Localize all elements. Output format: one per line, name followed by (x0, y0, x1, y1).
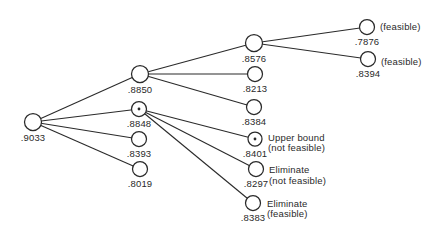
node-7876 (360, 20, 375, 35)
node-8850-value-label: .8850 (128, 84, 153, 95)
node-8383 (246, 196, 261, 211)
node-8393 (132, 132, 147, 147)
node-8383-value-label: .8383 (241, 212, 266, 223)
node-8213-value-label: .8213 (243, 83, 268, 94)
edge-9033-8850 (33, 74, 140, 122)
node-8297 (249, 162, 264, 177)
node-7876-annotation-line-0: (feasible) (380, 22, 421, 33)
edge-8576-8394 (254, 43, 368, 59)
edge-9033-8019 (33, 122, 140, 169)
node-8394-annotation-line-0: (feasible) (381, 57, 422, 68)
node-8394-annotation: (feasible) (381, 57, 422, 68)
node-8850 (132, 66, 149, 83)
node-8384-value-label: .8384 (242, 116, 267, 127)
node-8394-value-label: .8394 (356, 68, 381, 79)
edge-9033-8848 (33, 109, 139, 122)
node-8848-center-dot-icon (138, 108, 141, 111)
node-9033-value-label: .9033 (21, 132, 46, 143)
edge-8576-7876 (254, 27, 367, 43)
node-8019-value-label: .8019 (128, 178, 153, 189)
edge-8848-8383 (139, 109, 253, 203)
node-8401-annotation: Upper bound(not feasible) (268, 133, 325, 154)
node-8383-annotation: Eliminate(feasible) (267, 199, 308, 220)
node-8297-value-label: .8297 (244, 178, 269, 189)
node-8576 (246, 35, 263, 52)
edge-8848-8297 (139, 109, 256, 169)
node-8401-value-label: .8401 (243, 148, 268, 159)
node-8213 (248, 67, 263, 82)
node-8384 (247, 100, 262, 115)
node-8019 (133, 162, 148, 177)
node-8297-annotation-line-0: Eliminate (269, 165, 326, 176)
node-8297-annotation: Eliminate(not feasible) (269, 165, 326, 186)
node-8383-annotation-line-1: (feasible) (267, 209, 308, 220)
node-8401-center-dot-icon (254, 138, 257, 141)
edge-9033-8393 (33, 122, 139, 139)
node-9033 (25, 114, 42, 131)
node-8401-annotation-line-1: (not feasible) (268, 143, 325, 154)
node-7876-annotation: (feasible) (380, 22, 421, 33)
node-8393-value-label: .8393 (127, 148, 152, 159)
node-7876-value-label: .7876 (355, 36, 380, 47)
node-8848-value-label: .8848 (127, 118, 152, 129)
branch-and-bound-tree-figure: .9033.8850.8848.8393.8019.8576.8213.8384… (0, 0, 434, 237)
node-8297-annotation-line-1: (not feasible) (269, 176, 326, 187)
node-8576-value-label: .8576 (242, 53, 267, 64)
edge-8850-8576 (140, 43, 254, 74)
edge-8850-8384 (140, 74, 254, 107)
node-8394 (361, 52, 376, 67)
